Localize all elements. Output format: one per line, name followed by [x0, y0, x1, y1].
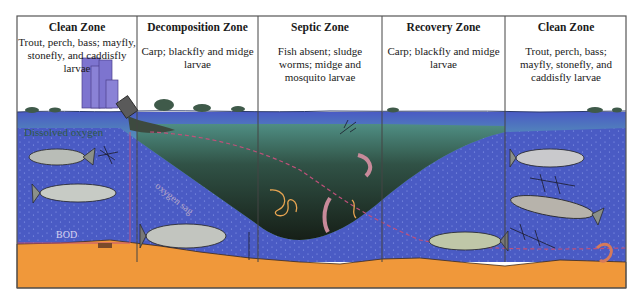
zone-description: Trout, perch, bass; mayfly, stonefly, an… [17, 36, 137, 75]
zone-description: Trout, perch, bass; mayfly, stonefly, an… [510, 45, 622, 84]
zone-decomposition: Decomposition Zone Carp; blackfly and mi… [137, 20, 258, 71]
bod-label: BOD [56, 229, 77, 240]
zone-title: Decomposition Zone [137, 20, 258, 34]
zone-title: Clean Zone [510, 20, 622, 34]
oxygen-sag-diagram: Clean Zone Trout, perch, bass; mayfly, s… [0, 0, 642, 303]
zone-title: Recovery Zone [382, 20, 505, 34]
zone-recovery: Recovery Zone Carp; blackfly and midge l… [382, 20, 505, 71]
zone-septic: Septic Zone Fish absent; sludge worms; m… [262, 20, 378, 84]
zone-description: Fish absent; sludge worms; midge and mos… [262, 45, 378, 84]
zone-clean-downstream: Clean Zone Trout, perch, bass; mayfly, s… [510, 20, 622, 84]
zone-title: Clean Zone [17, 20, 137, 34]
zone-description: Carp; blackfly and midge larvae [137, 45, 258, 71]
zone-description: Carp; blackfly and midge larvae [382, 45, 505, 71]
dissolved-oxygen-label: Dissolved oxygen [24, 126, 103, 138]
zone-clean-upstream: Clean Zone Trout, perch, bass; mayfly, s… [17, 20, 137, 75]
caddisfly-case-icon [98, 243, 112, 248]
zone-title: Septic Zone [262, 20, 378, 34]
